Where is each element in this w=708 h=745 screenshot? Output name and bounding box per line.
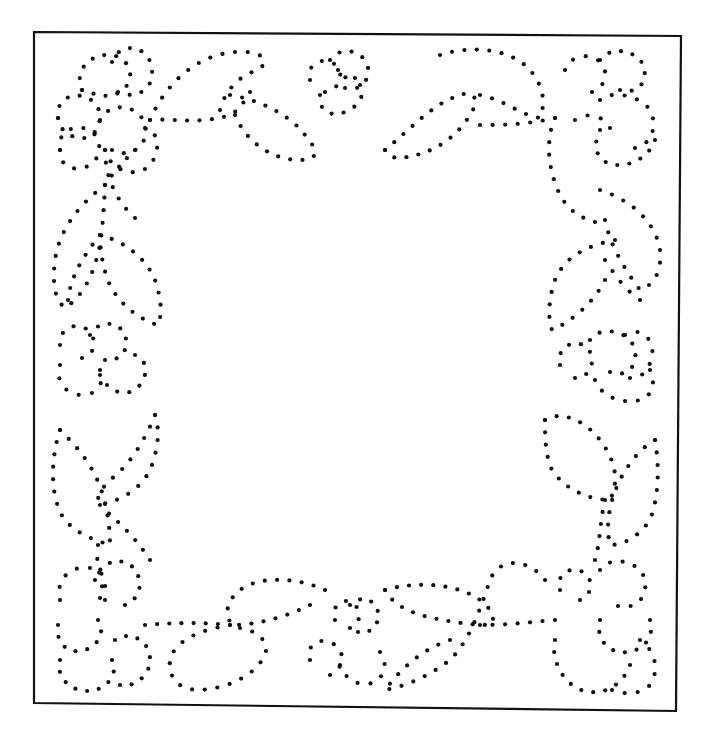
leaf-left-low-1-guide	[53, 430, 110, 545]
dot	[222, 115, 226, 119]
dot	[655, 273, 659, 277]
dot	[100, 584, 104, 588]
dot	[639, 60, 643, 64]
flower-left-mid-a	[58, 324, 95, 360]
dot	[487, 49, 491, 53]
dot	[423, 674, 427, 678]
dot	[96, 496, 100, 500]
dot	[571, 58, 575, 62]
dot	[588, 495, 592, 499]
dot	[537, 82, 541, 86]
dot	[491, 123, 495, 127]
dot	[148, 268, 152, 272]
dot	[548, 302, 552, 306]
dot	[431, 583, 435, 587]
dot	[61, 331, 65, 335]
dot	[561, 673, 565, 677]
dot	[530, 71, 534, 75]
dot	[610, 269, 614, 273]
flower-bottom-right-d-guide	[554, 640, 630, 692]
flower-bottom-right-a	[558, 568, 592, 602]
dot	[567, 568, 571, 572]
dot	[383, 588, 387, 592]
dot	[57, 376, 61, 380]
dot	[587, 590, 591, 594]
dot	[616, 604, 620, 608]
dot	[655, 236, 659, 240]
dot	[222, 96, 226, 100]
leaf-left-mid-1-guide	[54, 185, 105, 308]
dot	[133, 353, 137, 357]
dot	[369, 599, 373, 603]
dot	[133, 538, 137, 542]
dot	[106, 109, 110, 113]
dot	[63, 645, 67, 649]
dot	[651, 380, 655, 384]
dot	[462, 92, 466, 96]
dot	[93, 191, 97, 195]
dot	[152, 322, 156, 326]
dot	[390, 598, 394, 602]
dot	[308, 603, 312, 607]
dot	[154, 451, 158, 455]
dot	[318, 93, 322, 97]
dot	[636, 398, 640, 402]
flower-bottom-left-d-guide	[59, 660, 114, 691]
dot	[107, 281, 111, 285]
dot	[499, 564, 503, 568]
dot	[168, 661, 172, 665]
leaf-top-1	[148, 50, 265, 122]
dot	[597, 436, 601, 440]
stem-right-low	[593, 498, 607, 562]
dot	[58, 585, 62, 589]
dot	[233, 113, 237, 117]
dot	[652, 659, 656, 663]
dot	[557, 476, 561, 480]
dot	[215, 685, 219, 689]
dot	[88, 333, 92, 337]
dot	[597, 534, 601, 538]
dot	[410, 124, 414, 128]
dot	[69, 127, 73, 131]
flower-top-right-d-guide	[596, 130, 655, 165]
dot	[110, 174, 114, 178]
dot	[343, 86, 347, 90]
flower-left-mid-a-guide	[60, 326, 94, 358]
dot	[58, 343, 62, 347]
dot	[61, 160, 65, 164]
dot	[356, 630, 360, 634]
dot	[94, 156, 98, 160]
dot	[603, 69, 607, 73]
dot	[148, 655, 152, 659]
dot	[118, 683, 122, 687]
flower-right-mid-b	[588, 329, 638, 375]
dot	[337, 50, 341, 54]
dot	[238, 626, 242, 630]
dot	[153, 133, 157, 137]
dot	[300, 580, 304, 584]
dot	[148, 425, 152, 429]
dot	[75, 567, 79, 571]
dot	[103, 148, 107, 152]
dot	[477, 597, 481, 601]
flower-top-right-e	[573, 113, 612, 130]
leaf-top-2-guide	[230, 95, 315, 160]
dot	[103, 598, 107, 602]
dot	[577, 491, 581, 495]
dot	[584, 372, 588, 376]
dot	[628, 290, 632, 294]
dot	[541, 106, 545, 110]
dot	[635, 532, 639, 536]
dot	[637, 286, 641, 290]
dot	[375, 620, 379, 624]
dot	[170, 674, 174, 678]
dot	[604, 160, 608, 164]
dot	[646, 337, 650, 341]
dot	[117, 196, 121, 200]
dot	[558, 588, 562, 592]
dot	[635, 97, 639, 101]
dot	[125, 529, 129, 533]
dot	[229, 85, 233, 89]
dot	[98, 118, 102, 122]
dot	[513, 107, 517, 111]
